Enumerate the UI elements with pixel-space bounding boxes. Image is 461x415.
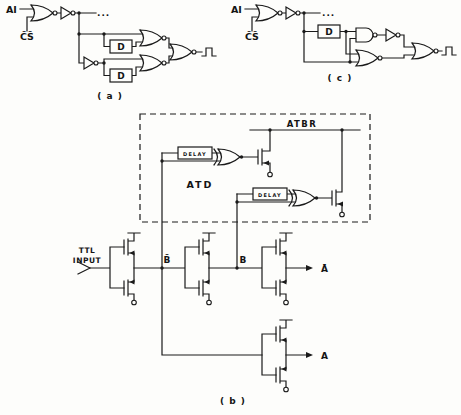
wire-net-c: [245, 9, 442, 62]
inverter-c-1: [286, 7, 300, 19]
continuation-dots-c: ...: [322, 8, 335, 18]
node-label-b-bar: B̄: [164, 254, 171, 265]
nor-gate-a-upper: [140, 30, 166, 46]
xor-gate-b-1: [214, 149, 240, 165]
delay-box-c-1: D: [318, 25, 340, 38]
nor-gate-a-lower: [140, 55, 166, 71]
delay-box-a-2-label: D: [117, 71, 124, 81]
nor-gate-c-output: [412, 43, 438, 59]
pulse-waveform-c: [442, 47, 456, 55]
nor-gate-a-input: [31, 5, 57, 21]
atd-label: ATD: [187, 179, 214, 190]
cmos-inverter-1: [124, 233, 140, 305]
delay-box-a-1: D: [110, 40, 132, 53]
a-bar-output-arrow: [306, 265, 313, 271]
continuation-dots-a: ...: [97, 8, 110, 18]
pulse-waveform-a: [202, 48, 216, 56]
nor-gate-c-input: [256, 5, 282, 21]
nor-gate-a-output: [170, 44, 196, 60]
delay-box-b-1-label: DELAY: [183, 151, 207, 157]
chip-select-label-c: C̄S̄: [245, 31, 259, 42]
delay-box-a-2: D: [110, 69, 132, 82]
circuit-c: D AI C̄S̄ ... ( c ): [231, 4, 456, 83]
address-input-label-c: AI: [231, 4, 242, 15]
circuit-b: DELAY DELAY ATBR ATD TTL INPUT: [73, 114, 370, 406]
node-label-b: B: [240, 255, 247, 265]
figure-page: D D AI C̄S̄ ... ( a ) D: [0, 0, 461, 415]
figure-canvas: D D AI C̄S̄ ... ( a ) D: [0, 0, 461, 415]
caption-b: ( b ): [220, 396, 246, 406]
nor-gate-c-lower: [356, 50, 382, 66]
xor-gate-b-2: [289, 190, 315, 206]
delay-box-c-1-label: D: [325, 27, 332, 37]
inverter-c-2: [386, 29, 400, 41]
caption-a: ( a ): [97, 91, 123, 101]
inverter-a-1: [61, 7, 75, 19]
junction-dots-a: [77, 11, 105, 64]
node-label-a-bar: Ā: [321, 264, 328, 274]
inverter-a-2: [84, 57, 98, 69]
ttl-input-label-line2: INPUT: [73, 256, 102, 265]
nand-gate-c: [356, 28, 377, 42]
circuit-a: D D AI C̄S̄ ... ( a ): [6, 4, 216, 101]
mosfet-atd-1: [264, 160, 273, 176]
node-label-a: A: [321, 351, 328, 361]
chip-select-label-a: C̄S̄: [20, 31, 34, 42]
atbr-label: ATBR: [287, 119, 318, 129]
delay-box-a-1-label: D: [117, 42, 124, 52]
cmos-inverter-2: [199, 233, 215, 305]
delay-box-b-2-label: DELAY: [258, 192, 282, 198]
delay-box-b-2: DELAY: [253, 188, 287, 200]
delay-box-b-1: DELAY: [178, 147, 212, 159]
a-output-arrow: [306, 352, 313, 358]
caption-c: ( c ): [328, 73, 353, 83]
cmos-inverter-4: [276, 320, 292, 392]
cmos-inverter-3: [276, 233, 292, 305]
mosfet-atd-2: [338, 201, 345, 216]
wire-net-inverters: [90, 247, 306, 375]
ttl-input-label-line1: TTL: [79, 246, 96, 255]
address-input-label-a: AI: [6, 4, 17, 15]
